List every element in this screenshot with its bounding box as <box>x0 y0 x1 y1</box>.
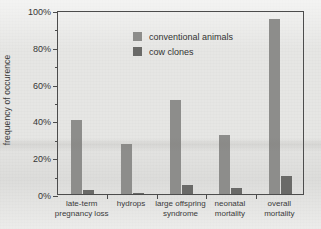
bar-cow-clones <box>231 188 242 194</box>
y-axis-tick-major <box>53 159 58 160</box>
plot-area: 0%20%40%60%80%100% conventional animals … <box>57 11 304 195</box>
y-axis-tick-label: 100% <box>28 7 51 17</box>
x-axis-category-label: hydrops <box>117 199 145 209</box>
x-axis-tick <box>206 194 207 199</box>
y-axis-tick-major <box>53 122 58 123</box>
x-axis-category-label: overall mortality <box>258 199 300 219</box>
legend-item-conventional-animals: conventional animals <box>133 29 233 44</box>
bar-cow-clones <box>133 193 144 194</box>
y-axis-tick-major <box>53 86 58 87</box>
bar-conventional-animals <box>219 135 230 194</box>
y-axis-title-text: frequency of occurence <box>2 55 12 146</box>
y-axis-tick-minor <box>55 178 58 179</box>
y-axis-tick-label: 80% <box>33 44 51 54</box>
y-axis-tick-minor <box>55 104 58 105</box>
x-axis-tick <box>256 194 257 199</box>
y-axis-tick-minor <box>55 30 58 31</box>
y-axis-tick-major <box>53 49 58 50</box>
legend-swatch-icon-cow-clones <box>133 47 142 56</box>
bar-cow-clones <box>281 176 292 194</box>
x-axis-category-label: neonatal mortality <box>215 199 246 219</box>
y-axis-tick-minor <box>55 67 58 68</box>
x-axis-category-label: large offspring syndrome <box>155 199 206 219</box>
y-axis-tick-label: 20% <box>33 154 51 164</box>
legend-label-cow-clones: cow clones <box>149 47 194 57</box>
x-axis-category-label: late-term pregnancy loss <box>55 199 109 219</box>
legend-item-cow-clones: cow clones <box>133 44 233 59</box>
bar-cow-clones <box>83 190 94 194</box>
y-axis-tick-major <box>53 12 58 13</box>
bar-conventional-animals <box>71 120 82 194</box>
legend-swatch-icon-conventional-animals <box>133 32 142 41</box>
y-axis-tick-major <box>53 196 58 197</box>
bar-cow-clones <box>182 185 193 194</box>
bar-conventional-animals <box>170 100 181 194</box>
chart-legend: conventional animals cow clones <box>133 29 233 59</box>
y-axis-tick-minor <box>55 141 58 142</box>
bar-conventional-animals <box>269 19 280 194</box>
legend-label-conventional-animals: conventional animals <box>149 32 233 42</box>
bar-conventional-animals <box>121 144 132 194</box>
y-axis-tick-label: 40% <box>33 117 51 127</box>
y-axis-tick-label: 60% <box>33 81 51 91</box>
y-axis-title: frequency of occurence <box>0 0 14 200</box>
y-axis-tick-label: 0% <box>38 191 51 201</box>
bar-chart-figure: frequency of occurence 0%20%40%60%80%100… <box>0 0 321 229</box>
